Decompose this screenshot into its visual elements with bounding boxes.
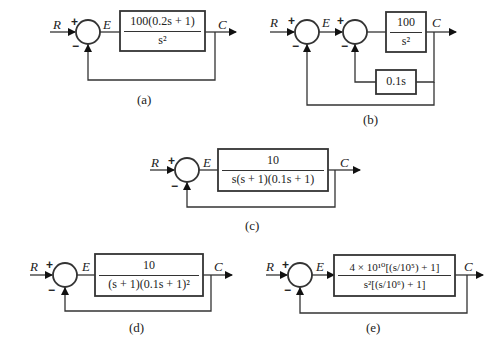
fraction-bar — [99, 275, 199, 276]
tf-denominator: s² — [155, 34, 169, 47]
error-signal-label: E — [103, 18, 111, 31]
minus-sign: − — [48, 284, 55, 296]
plus-sign: + — [282, 259, 289, 271]
diagram-caption: (a) — [137, 92, 151, 108]
minus-sign-inner: − — [341, 40, 348, 52]
plus-sign: + — [46, 259, 53, 271]
minus-sign: − — [72, 40, 79, 52]
input-signal-label: R — [266, 260, 274, 273]
error-signal-label: E — [203, 156, 211, 169]
feedback-gain: 0.1s — [383, 75, 409, 88]
block-diagram-figure: R + − E 100(0.2s + 1) s² C (a) R + − E +… — [0, 0, 503, 357]
minus-sign: − — [171, 180, 178, 192]
fraction-bar — [222, 170, 324, 171]
output-signal-label: C — [218, 18, 227, 31]
error-signal-label: E — [82, 260, 90, 273]
forward-transfer-function: 10 s(s + 1)(0.1s + 1) — [218, 149, 328, 191]
forward-transfer-function: 4 × 10¹⁰[(s/10⁵) + 1] s²[(s/10⁶) + 1] — [334, 255, 455, 296]
forward-transfer-function: 100 s² — [386, 12, 426, 52]
input-signal-label: R — [30, 260, 38, 273]
minus-sign: − — [292, 40, 299, 52]
diagram-caption: (e) — [366, 320, 380, 336]
plus-sign: + — [168, 155, 175, 167]
diagram-caption: (d) — [129, 320, 144, 336]
error-signal-label: E — [322, 16, 330, 29]
forward-transfer-function: 10 (s + 1)(0.1s + 1)² — [95, 254, 203, 296]
tf-numerator: 10 — [140, 259, 158, 272]
fraction-bar — [338, 275, 451, 276]
input-signal-label: R — [151, 156, 159, 169]
plus-sign-inner: + — [337, 15, 344, 27]
tf-denominator: (s + 1)(0.1s + 1)² — [105, 278, 192, 291]
tf-denominator: s² — [399, 35, 413, 48]
fraction-bar — [390, 32, 422, 33]
tf-numerator: 4 × 10¹⁰[(s/10⁵) + 1] — [347, 261, 443, 273]
output-signal-label: C — [464, 260, 473, 273]
plus-sign: + — [71, 16, 78, 28]
output-signal-label: C — [432, 16, 441, 29]
feedback-transfer-function: 0.1s — [376, 70, 416, 94]
tf-numerator: 100 — [394, 16, 418, 29]
error-signal-label: E — [316, 260, 324, 273]
tf-numerator: 10 — [264, 154, 282, 167]
input-signal-label: R — [53, 18, 61, 31]
diagram-caption: (c) — [245, 218, 259, 234]
tf-numerator: 100(0.2s + 1) — [127, 15, 197, 28]
minus-sign: − — [284, 284, 291, 296]
output-signal-label: C — [340, 156, 349, 169]
plus-sign: + — [288, 15, 295, 27]
fraction-bar — [124, 31, 201, 32]
tf-denominator: s(s + 1)(0.1s + 1) — [229, 173, 318, 186]
output-signal-label: C — [214, 260, 223, 273]
diagram-caption: (b) — [363, 112, 378, 128]
forward-transfer-function: 100(0.2s + 1) s² — [120, 11, 205, 51]
tf-denominator: s²[(s/10⁶) + 1] — [361, 278, 429, 290]
input-signal-label: R — [270, 16, 278, 29]
